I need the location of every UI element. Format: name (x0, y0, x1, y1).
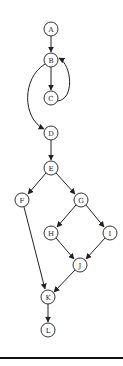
node-j: J (73, 258, 87, 272)
svg-text:E: E (48, 165, 53, 173)
svg-text:D: D (48, 130, 54, 138)
edge-f-k (24, 207, 45, 289)
svg-text:L: L (46, 327, 51, 335)
edge-i-j (86, 238, 105, 259)
node-b: B (44, 53, 58, 67)
svg-text:F: F (20, 197, 25, 205)
svg-text:J: J (78, 262, 82, 270)
svg-text:A: A (47, 26, 54, 34)
edges (24, 36, 105, 322)
svg-text:I: I (109, 230, 112, 238)
edge-e-g (56, 173, 75, 194)
node-l: L (41, 323, 55, 337)
node-d: D (44, 126, 58, 140)
node-g: G (74, 193, 88, 207)
nodes: A B C D E F G H I J K L (15, 22, 117, 337)
edge-g-h (57, 205, 76, 227)
control-flow-graph: A B C D E F G H I J K L (0, 0, 123, 366)
svg-text:K: K (45, 294, 51, 302)
edge-j-k (54, 270, 75, 292)
svg-text:H: H (48, 230, 54, 238)
node-k: K (41, 290, 55, 304)
edge-e-f (28, 173, 46, 194)
node-i: I (103, 226, 117, 240)
edge-h-j (56, 238, 74, 259)
edge-b-d (28, 64, 45, 129)
edge-g-i (86, 205, 104, 227)
node-e: E (44, 161, 58, 175)
bottom-rule (0, 357, 123, 359)
edge-c-b (57, 58, 70, 101)
node-f: F (15, 193, 29, 207)
node-a: A (44, 22, 58, 36)
node-c: C (44, 91, 58, 105)
svg-text:G: G (78, 197, 84, 205)
svg-text:B: B (48, 57, 53, 65)
svg-text:C: C (48, 95, 53, 103)
node-h: H (44, 226, 58, 240)
